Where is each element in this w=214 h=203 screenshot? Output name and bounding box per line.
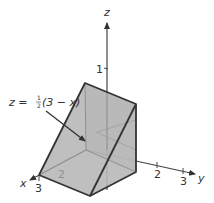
x-tick-label-2: 2 <box>58 168 65 181</box>
z-tick-label-1: 1 <box>96 63 103 76</box>
wedge-diagram: z 1 y 2 3 x 3 2 z = 1 2 (3 − x) <box>0 0 214 203</box>
equation-label: z = 1 2 (3 − x) <box>8 94 80 109</box>
x-axis-label: x <box>19 177 27 190</box>
x-tick-label-3: 3 <box>35 182 42 195</box>
y-tick-label-2: 2 <box>154 168 161 181</box>
equation-frac-num: 1 <box>37 94 41 101</box>
equation-rhs: (3 − x) <box>42 96 80 109</box>
equation-frac-den: 2 <box>37 102 41 109</box>
y-tick-label-3: 3 <box>180 175 187 188</box>
z-axis-label: z <box>103 6 110 19</box>
equation-lhs: z = <box>8 96 28 109</box>
y-axis-label: y <box>197 172 205 185</box>
